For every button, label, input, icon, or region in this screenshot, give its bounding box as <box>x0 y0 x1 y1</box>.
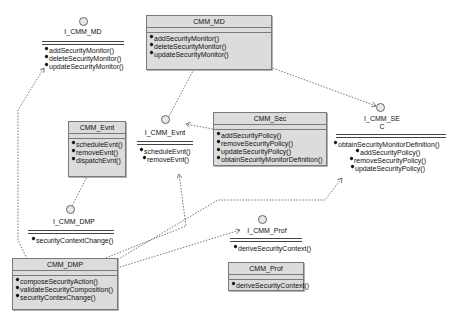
public-method-icon <box>216 155 220 159</box>
divider <box>336 137 446 138</box>
public-method-icon <box>149 50 153 54</box>
public-method-icon <box>233 244 237 248</box>
interface-lollipop-icon <box>376 103 385 112</box>
interface-lollipop-icon <box>161 115 170 124</box>
operation[interactable]: obtainSecurityMonitorDefinition() <box>334 141 440 149</box>
public-method-icon <box>31 236 35 240</box>
operation[interactable]: composeSecurityAction() <box>16 278 114 286</box>
divider <box>137 141 193 142</box>
class-cmm-sec[interactable]: CMM_Sec addSecurityPolicy() removeSecuri… <box>213 112 327 166</box>
operation[interactable]: addSecurityMonitor() <box>150 35 268 43</box>
divider <box>230 238 302 239</box>
public-method-icon <box>231 281 235 285</box>
edge-cmm-md-to-i-cmm-sec <box>270 67 376 106</box>
divider <box>28 233 114 234</box>
operation[interactable]: updateSecurityPolicy() <box>217 148 323 156</box>
class-cmm-prof[interactable]: CMM_Prof deriveSecurityContext() <box>228 262 304 291</box>
divider <box>42 41 124 42</box>
operation[interactable]: securityContextChange() <box>32 237 113 245</box>
operation-list: addSecurityMonitor() deleteSecurityMonit… <box>45 47 124 71</box>
operation-list: addSecurityPolicy() removeSecurityPolicy… <box>214 130 326 166</box>
operation[interactable]: updateSecurityPolicy() <box>334 165 440 173</box>
operation-list: deriveSecurityContext() <box>234 245 311 253</box>
public-method-icon <box>44 46 48 50</box>
operation[interactable]: deriveSecurityContext() <box>232 282 300 290</box>
public-method-icon <box>349 156 353 160</box>
operation[interactable]: scheduleEvnt() <box>140 148 191 156</box>
operation-list: scheduleEvnt() removeEvnt() dispatchEvnt… <box>69 139 125 167</box>
interface-lollipop-icon <box>258 215 267 224</box>
interface-i-cmm-prof: I_CMM_Prof deriveSecurityContext() <box>228 215 308 245</box>
operation[interactable]: deriveSecurityContext() <box>234 245 311 253</box>
class-name: CMM_Sec <box>214 113 326 125</box>
divider <box>137 144 193 145</box>
public-method-icon <box>71 148 75 152</box>
class-name: CMM_DMP <box>13 259 117 271</box>
operation[interactable]: scheduleEvnt() <box>72 141 122 149</box>
class-cmm-dmp[interactable]: CMM_DMP composeSecurityAction() validate… <box>12 258 118 310</box>
interface-name-line1: I_CMM_SE <box>330 115 434 123</box>
edge-cmm-dmp-to-i-cmm-prof <box>117 230 240 268</box>
public-method-icon <box>216 131 220 135</box>
operation[interactable]: updateSecurityMonitor() <box>45 63 124 71</box>
public-method-icon <box>44 54 48 58</box>
operation[interactable]: removeSecurityPolicy() <box>334 157 440 165</box>
operation-list: scheduleEvnt() removeEvnt() <box>140 148 191 164</box>
interface-name: I_CMM_MD <box>40 28 126 36</box>
interface-name: I_CMM_DMP <box>26 218 122 226</box>
public-method-icon <box>71 140 75 144</box>
public-method-icon <box>15 293 19 297</box>
operation[interactable]: dispatchEvnt() <box>72 157 122 165</box>
interface-name: I_CMM_Evnt <box>135 129 195 137</box>
operation[interactable]: addSecurityPolicy() <box>334 149 440 157</box>
public-method-icon <box>139 147 143 151</box>
operation[interactable]: removeEvnt() <box>140 156 191 164</box>
public-method-icon <box>350 164 354 168</box>
public-method-icon <box>149 42 153 46</box>
class-name: CMM_MD <box>147 16 271 28</box>
interface-lollipop-icon <box>66 205 75 214</box>
interface-lollipop-icon <box>79 17 88 26</box>
divider <box>42 44 124 45</box>
class-name: CMM_Prof <box>229 263 303 275</box>
interface-i-cmm-evnt: I_CMM_Evnt scheduleEvnt() removeEvnt() <box>135 115 195 170</box>
operation-list: obtainSecurityMonitorDefinition() addSec… <box>334 141 440 173</box>
public-method-icon <box>15 285 19 289</box>
operation[interactable]: deleteSecurityMonitor() <box>45 55 124 63</box>
operation-list: composeSecurityAction() validateSecurity… <box>13 276 117 304</box>
class-cmm-md[interactable]: CMM_MD addSecurityMonitor() deleteSecuri… <box>146 15 272 70</box>
class-name: CMM_Evnt <box>69 122 125 134</box>
operation[interactable]: addSecurityMonitor() <box>45 47 124 55</box>
class-cmm-evnt[interactable]: CMM_Evnt scheduleEvnt() removeEvnt() dis… <box>68 121 126 177</box>
public-method-icon <box>216 139 220 143</box>
interface-i-cmm-dmp: I_CMM_DMP securityContextChange() <box>26 200 116 250</box>
divider <box>336 134 446 135</box>
operation-list: addSecurityMonitor() deleteSecurityMonit… <box>147 33 271 61</box>
operation[interactable]: validateSecurityComposition() <box>16 286 114 294</box>
operation[interactable]: deleteSecurityMonitor() <box>150 43 268 51</box>
public-method-icon <box>216 147 220 151</box>
public-method-icon <box>44 62 48 66</box>
operation[interactable]: removeSecurityPolicy() <box>217 140 323 148</box>
public-method-icon <box>333 140 337 144</box>
divider <box>28 230 114 231</box>
operation[interactable]: addSecurityPolicy() <box>217 132 323 140</box>
interface-name: I_CMM_Prof <box>242 227 292 235</box>
public-method-icon <box>71 156 75 160</box>
divider <box>230 241 302 242</box>
interface-i-cmm-sec: I_CMM_SE C obtainSecurityMonitorDefiniti… <box>330 103 448 183</box>
public-method-icon <box>355 148 359 152</box>
edge-cmm-md-to-i-cmm-evnt <box>168 69 194 118</box>
operation[interactable]: updateSecurityMonitor() <box>150 51 268 59</box>
public-method-icon <box>142 155 146 159</box>
public-method-icon <box>15 277 19 281</box>
operation[interactable]: removeEvnt() <box>72 149 122 157</box>
operation-list: deriveSecurityContext() <box>229 280 303 292</box>
operation[interactable]: securityContexChange() <box>16 294 114 302</box>
interface-name-line2: C <box>330 123 434 131</box>
operation-list: securityContextChange() <box>32 237 113 245</box>
operation[interactable]: obtainSecurityMonitorDefinition() <box>217 156 323 164</box>
interface-i-cmm-md: I_CMM_MD addSecurityMonitor() deleteSecu… <box>40 17 126 77</box>
public-method-icon <box>149 34 153 38</box>
